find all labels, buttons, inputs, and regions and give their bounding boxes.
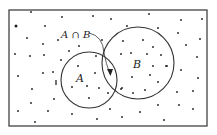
sample-point [196, 56, 198, 58]
sample-point [57, 39, 59, 41]
sample-point [95, 55, 97, 57]
sample-point [71, 86, 73, 88]
sample-point [14, 53, 16, 55]
sample-point [68, 50, 70, 52]
sample-point [152, 65, 154, 67]
sample-point [121, 116, 123, 118]
sample-point [142, 39, 144, 41]
sample-point [44, 25, 46, 27]
sample-point [132, 92, 134, 94]
sample-point [96, 118, 98, 120]
sample-point [71, 113, 73, 115]
sample-point [144, 89, 146, 91]
sample-point [109, 108, 111, 110]
sample-point [122, 40, 124, 42]
sample-point [163, 119, 165, 121]
sample-point [131, 76, 133, 78]
sample-point [197, 77, 199, 79]
venn-diagram: A B A ∩ B [0, 0, 217, 135]
sample-point [15, 25, 18, 28]
sample-point [42, 72, 44, 74]
sample-point [107, 92, 109, 94]
sample-point [192, 90, 194, 92]
sample-point [139, 111, 141, 113]
sample-point [47, 110, 49, 112]
sample-point [157, 81, 159, 83]
sample-point [192, 108, 194, 110]
sample-point [94, 72, 96, 74]
sample-point [61, 16, 63, 18]
sample-point [98, 87, 100, 89]
sample-point [52, 71, 54, 73]
sample-point [149, 74, 151, 76]
sample-point [201, 18, 203, 20]
sample-point [53, 98, 55, 100]
sample-point [165, 65, 167, 67]
sample-point [17, 75, 19, 77]
sample-point [120, 53, 122, 55]
sample-point [78, 45, 80, 47]
sample-point [146, 53, 148, 55]
sample-point [17, 110, 19, 112]
sample-point [30, 11, 32, 13]
sample-point [152, 46, 154, 48]
sample-point [199, 38, 201, 40]
sample-point [157, 104, 159, 106]
sample-point [160, 54, 162, 56]
sample-point [31, 88, 33, 90]
sample-point [30, 102, 32, 104]
sample-point [77, 65, 79, 67]
sample-point [101, 39, 103, 41]
sample-point [110, 18, 112, 20]
sample-point [34, 121, 36, 123]
sample-point [176, 91, 178, 93]
sample-point [29, 55, 31, 57]
sample-point [92, 15, 94, 17]
intersection-label: A ∩ B [60, 29, 90, 40]
sample-point [177, 32, 179, 34]
sample-point [121, 87, 123, 89]
sample-point [178, 104, 180, 106]
set-a-label: A [75, 72, 84, 85]
sample-point [43, 54, 45, 56]
sample-point [148, 13, 150, 15]
sample-point [180, 69, 182, 71]
set-b-label: B [132, 58, 141, 71]
sample-point [180, 19, 182, 21]
sample-point [86, 85, 88, 87]
sample-point [88, 97, 90, 99]
sample-point [42, 43, 44, 45]
sample-point [185, 44, 187, 46]
sample-point [60, 59, 62, 61]
sample-point [130, 52, 132, 54]
sample-point [26, 37, 28, 39]
sample-point [157, 27, 159, 29]
sample-point [126, 25, 128, 27]
